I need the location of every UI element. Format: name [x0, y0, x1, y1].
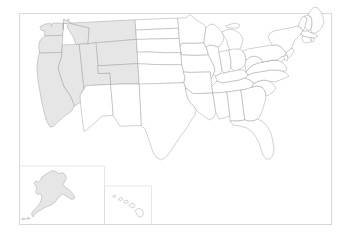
- state-minnesota[interactable]: [178, 15, 206, 47]
- state-oregon[interactable]: [39, 35, 63, 53]
- state-alaska-aleutians[interactable]: [22, 218, 31, 221]
- state-south-dakota[interactable]: [136, 28, 179, 39]
- inset-boxes: [20, 166, 152, 225]
- state-florida[interactable]: [230, 119, 274, 159]
- state-kansas[interactable]: [137, 52, 182, 65]
- state-washington[interactable]: [40, 23, 63, 36]
- state-georgia[interactable]: [241, 86, 266, 121]
- us-choropleth-map[interactable]: [0, 0, 352, 239]
- state-wisconsin[interactable]: [204, 24, 224, 47]
- state-nebraska[interactable]: [136, 38, 181, 52]
- state-iowa[interactable]: [180, 43, 208, 55]
- state-arizona[interactable]: [80, 84, 113, 131]
- state-new-mexico[interactable]: [111, 84, 142, 126]
- state-rhode-island[interactable]: [311, 38, 314, 42]
- hawaii-inset-box: [105, 186, 152, 225]
- state-wyoming[interactable]: [96, 39, 138, 65]
- states-layer: [22, 7, 325, 220]
- state-michigan[interactable]: [222, 23, 243, 53]
- map-figure: [0, 0, 352, 239]
- state-north-dakota[interactable]: [135, 18, 179, 30]
- state-hawaii[interactable]: [113, 195, 144, 217]
- state-oklahoma[interactable]: [138, 64, 185, 84]
- state-alaska[interactable]: [32, 171, 76, 218]
